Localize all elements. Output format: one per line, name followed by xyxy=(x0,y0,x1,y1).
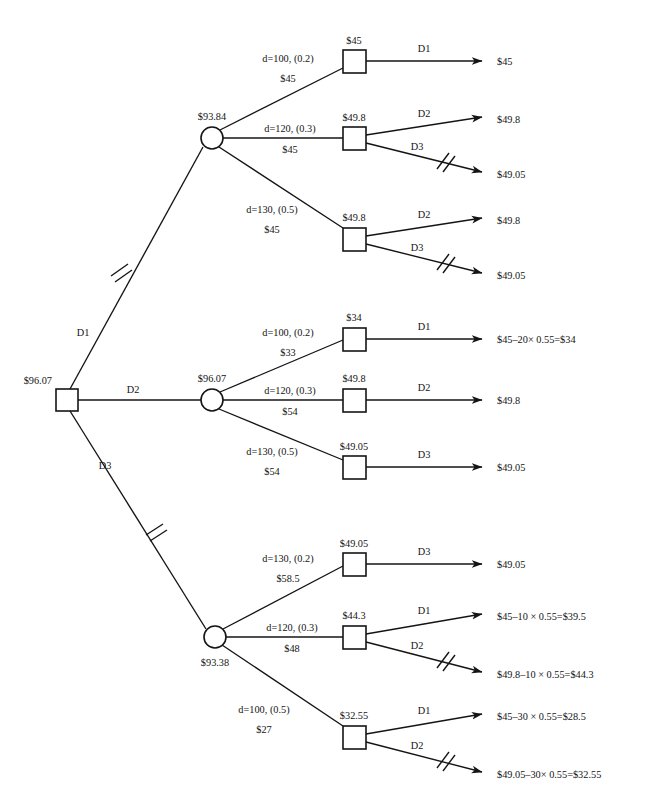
middle-branch-3-cost: $54 xyxy=(264,466,279,477)
bottom-branch-2-decision-node[interactable]: $44.3 xyxy=(342,610,366,649)
middle-branch-2-terminal-1-label: D2 xyxy=(418,382,431,393)
root-branch-d3-line[interactable] xyxy=(70,411,206,629)
middle-branch-1[interactable]: d=100, (0.2) $33 xyxy=(220,327,343,392)
top-branch-3-node-square[interactable] xyxy=(343,228,366,251)
middle-branch-1-node-value: $34 xyxy=(346,312,361,323)
bottom-branch-2-demand: d=120, (0.3) xyxy=(266,622,317,634)
bottom-branch-3-terminal-1-payoff: $45–30 × 0.55=$28.5 xyxy=(497,711,586,722)
middle-branch-3-node-square[interactable] xyxy=(343,456,366,479)
middle-branch-2-terminal-1-payoff: $49.8 xyxy=(497,395,520,406)
bottom-branch-3-terminal-2-line[interactable] xyxy=(366,742,482,772)
top-branch-2-terminal-2-line[interactable] xyxy=(366,143,482,172)
root-node-square[interactable] xyxy=(56,389,78,411)
bottom-branch-3-terminal-1[interactable]: D1 $45–30 × 0.55=$28.5 xyxy=(366,705,586,734)
bottom-branch-2-node-square[interactable] xyxy=(343,626,366,649)
middle-branch-1-terminal-1[interactable]: D1 $45–20× 0.55=$34 xyxy=(366,321,576,345)
bottom-branch-3-terminal-2-payoff: $49.05–30× 0.55=$32.55 xyxy=(497,769,601,780)
bottom-branch-1-demand: d=130, (0.2) xyxy=(262,553,313,565)
bottom-branch-2-cost: $48 xyxy=(284,643,299,654)
top-branch-1-node-square[interactable] xyxy=(343,50,366,73)
middle-branch-2-node-value: $49.8 xyxy=(342,373,365,384)
bottom-branch-1-node-value: $49.05 xyxy=(340,538,368,549)
top-branch-1-decision-node[interactable]: $45 xyxy=(343,35,366,73)
top-branch-2-cost: $45 xyxy=(282,144,297,155)
top-branch-1-cost: $45 xyxy=(280,73,295,84)
middle-branch-3-terminal-1-payoff: $49.05 xyxy=(497,462,525,473)
top-branch-2-demand: d=120, (0.3) xyxy=(264,123,315,135)
root-decision-node[interactable]: $96.07 xyxy=(24,375,78,411)
middle-branch-3-decision-node[interactable]: $49.05 xyxy=(340,441,368,479)
top-branch-2-node-value: $49.8 xyxy=(342,112,365,123)
chance-node-top-circle[interactable] xyxy=(201,127,223,149)
chance-node-bottom-value: $93.38 xyxy=(201,657,229,668)
bottom-branch-2-terminal-1-label: D1 xyxy=(418,605,431,616)
top-branch-3-terminal-1-line[interactable] xyxy=(366,218,482,236)
top-branch-3-terminal-1[interactable]: D2 $49.8 xyxy=(366,209,520,236)
middle-branch-2-cost: $54 xyxy=(282,406,297,417)
top-branch-2-terminal-1[interactable]: D2 $49.8 xyxy=(366,108,520,135)
top-branch-3-line[interactable] xyxy=(219,147,343,228)
bottom-branch-2-terminal-2-line[interactable] xyxy=(366,642,482,672)
top-branch-3-decision-node[interactable]: $49.8 xyxy=(342,212,366,251)
top-branch-3[interactable]: d=130, (0.5) $45 xyxy=(219,147,343,235)
bottom-branch-3-terminal-2[interactable]: D2 $49.05–30× 0.55=$32.55 xyxy=(366,740,601,780)
chance-node-middle[interactable]: $96.07 xyxy=(198,373,226,411)
bottom-branch-1-decision-node[interactable]: $49.05 xyxy=(340,538,368,576)
bottom-branch-3-demand: d=100, (0.5) xyxy=(238,704,289,716)
middle-branch-2-terminal-1[interactable]: D2 $49.8 xyxy=(366,382,520,406)
top-branch-1[interactable]: d=100, (0.2) $45 xyxy=(220,53,343,130)
middle-branch-2-node-square[interactable] xyxy=(343,389,366,412)
bottom-branch-3-terminal-1-line[interactable] xyxy=(366,714,482,734)
top-branch-3-terminal-2-line[interactable] xyxy=(366,244,482,273)
top-branch-3-terminal-2-payoff: $49.05 xyxy=(497,270,525,281)
bottom-branch-2[interactable]: d=120, (0.3) $48 xyxy=(226,622,343,654)
bottom-branch-3[interactable]: d=100, (0.5) $27 xyxy=(222,645,343,735)
root-branch-d3[interactable]: D3 xyxy=(70,411,206,629)
top-branch-1-terminal-1-label: D1 xyxy=(418,43,431,54)
top-branch-2-terminal-1-line[interactable] xyxy=(366,117,482,135)
top-branch-2[interactable]: d=120, (0.3) $45 xyxy=(223,123,343,155)
top-branch-2-terminal-2-label: D3 xyxy=(411,141,424,152)
top-branch-2-node-square[interactable] xyxy=(343,127,366,150)
bottom-branch-3-node-value: $32.55 xyxy=(340,710,368,721)
chance-node-middle-circle[interactable] xyxy=(201,389,223,411)
top-branch-3-terminal-1-label: D2 xyxy=(418,209,431,220)
top-branch-1-terminal-1-payoff: $45 xyxy=(497,56,512,67)
middle-branch-1-cost: $33 xyxy=(280,347,295,358)
root-branch-d3-label: D3 xyxy=(99,460,112,471)
middle-branch-3-terminal-1[interactable]: D3 $49.05 xyxy=(366,449,525,473)
middle-branch-1-decision-node[interactable]: $34 xyxy=(343,312,366,351)
bottom-branch-1[interactable]: d=130, (0.2) $58.5 xyxy=(223,553,343,629)
middle-branch-2-decision-node[interactable]: $49.8 xyxy=(342,373,366,412)
middle-branch-3-demand: d=130, (0.5) xyxy=(246,446,297,458)
bottom-branch-1-node-square[interactable] xyxy=(343,553,366,576)
bottom-branch-1-cost: $58.5 xyxy=(276,573,299,584)
top-branch-2-decision-node[interactable]: $49.8 xyxy=(342,112,366,150)
middle-branch-3[interactable]: d=130, (0.5) $54 xyxy=(219,409,343,477)
bottom-branch-3-node-square[interactable] xyxy=(343,726,366,749)
top-branch-2-terminal-2-payoff: $49.05 xyxy=(497,169,525,180)
bottom-branch-1-terminal-1[interactable]: D3 $49.05 xyxy=(366,546,525,570)
top-branch-1-demand: d=100, (0.2) xyxy=(262,53,313,65)
top-branch-2-terminal-2[interactable]: D3 $49.05 xyxy=(366,141,525,180)
top-branch-3-terminal-1-payoff: $49.8 xyxy=(497,215,520,226)
root-branch-d1-prune-mark xyxy=(111,264,132,282)
root-branch-d1[interactable]: D1 xyxy=(70,147,203,389)
top-branch-1-terminal-1[interactable]: D1 $45 xyxy=(366,43,512,67)
bottom-branch-2-terminal-2[interactable]: D2 $49.8–10 × 0.55=$44.3 xyxy=(366,640,594,680)
bottom-branch-2-terminal-2-payoff: $49.8–10 × 0.55=$44.3 xyxy=(497,669,594,680)
root-branch-d1-line[interactable] xyxy=(70,147,203,389)
chance-node-top[interactable]: $93.84 xyxy=(198,111,226,149)
root-branch-d1-label: D1 xyxy=(77,327,90,338)
middle-branch-1-node-square[interactable] xyxy=(343,328,366,351)
decision-tree-diagram: $96.07 D1 D2 D3 $93.84 d=100, (0.2) $45 xyxy=(0,0,647,807)
middle-branch-3-node-value: $49.05 xyxy=(340,441,368,452)
bottom-branch-2-terminal-1-line[interactable] xyxy=(366,614,482,634)
root-branch-d2[interactable]: D2 xyxy=(78,384,201,400)
middle-branch-2[interactable]: d=120, (0.3) $54 xyxy=(223,385,343,417)
top-branch-3-terminal-2-label: D3 xyxy=(411,242,424,253)
middle-branch-3-terminal-1-label: D3 xyxy=(418,449,431,460)
top-branch-3-terminal-2[interactable]: D3 $49.05 xyxy=(366,242,525,281)
bottom-branch-3-decision-node[interactable]: $32.55 xyxy=(340,710,368,749)
bottom-branch-2-terminal-1[interactable]: D1 $45–10 × 0.55=$39.5 xyxy=(366,605,586,634)
